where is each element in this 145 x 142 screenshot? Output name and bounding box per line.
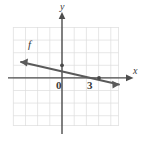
origin-label: 0 [56,80,62,91]
point-y-intercept [60,63,64,67]
graph-figure: y x f 0 3 [0,0,145,142]
y-axis-label: y [60,2,64,12]
x-axis-label: x [133,66,137,76]
function-label-f: f [28,39,31,50]
point-x-intercept [97,76,101,80]
coordinate-plane-svg [0,0,145,142]
x-tick-label-3: 3 [87,80,93,91]
function-line-f [21,59,120,89]
x-axis [8,75,134,82]
